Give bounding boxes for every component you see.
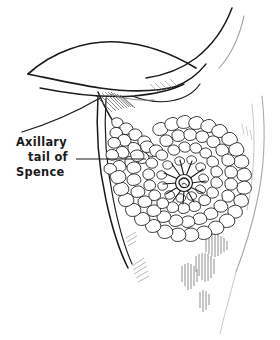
label-line-2: tail of bbox=[28, 150, 69, 164]
anatomical-illustration: Axillary tail of Spence bbox=[0, 0, 280, 340]
label-line-3: Spence bbox=[16, 165, 64, 179]
label-line-1: Axillary bbox=[16, 135, 67, 149]
illustration-canvas: Axillary tail of Spence bbox=[0, 0, 280, 340]
